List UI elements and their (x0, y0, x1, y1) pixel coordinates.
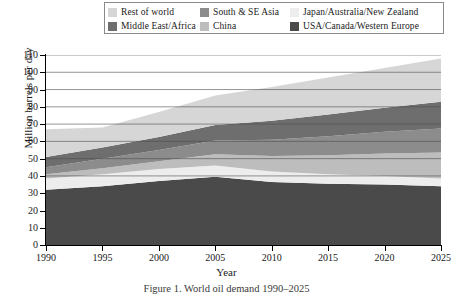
x-axis-line (45, 245, 442, 246)
x-tick-mark (385, 246, 386, 251)
legend-entry-middle-east-africa: Middle East/Africa (108, 20, 200, 33)
x-tick-label: 1990 (26, 252, 66, 263)
stacked-area-plot (46, 55, 441, 245)
legend-entry-japan-australia-nz: Japan/Australia/New Zealand (290, 6, 440, 19)
y-tick-mark (40, 141, 45, 142)
y-tick-mark (40, 124, 45, 125)
x-axis-title: Year (0, 266, 453, 278)
legend-label-middle-east-africa: Middle East/Africa (121, 21, 196, 32)
y-tick-mark (40, 176, 45, 177)
legend-entry-south-se-asia: South & SE Asia (200, 6, 290, 19)
legend-row: Middle East/Africa China USA/Canada/West… (108, 20, 440, 33)
y-tick-mark (40, 245, 45, 246)
legend-label-china: China (213, 21, 236, 32)
x-tick-label: 2020 (365, 252, 405, 263)
x-tick-label: 2025 (421, 252, 453, 263)
x-tick-label: 2015 (308, 252, 348, 263)
x-tick-mark (272, 246, 273, 251)
legend-swatch-japan-australia-nz (290, 8, 299, 17)
legend-row: Rest of world South & SE Asia Japan/Aust… (108, 6, 440, 19)
y-tick-label: 10 (12, 223, 38, 233)
chart-legend: Rest of world South & SE Asia Japan/Aust… (104, 2, 444, 34)
x-tick-label: 1995 (82, 252, 122, 263)
legend-swatch-south-se-asia (200, 8, 209, 17)
legend-entry-usa-canada-western-europe: USA/Canada/Western Europe (290, 20, 440, 33)
y-tick-mark (40, 55, 45, 56)
y-tick-mark (40, 159, 45, 160)
x-tick-mark (328, 246, 329, 251)
legend-label-usa-canada-western-europe: USA/Canada/Western Europe (303, 21, 419, 32)
plot-area (46, 55, 441, 245)
legend-entry-china: China (200, 20, 290, 33)
legend-label-rest-of-world: Rest of world (121, 7, 174, 18)
y-tick-label: 20 (12, 206, 38, 216)
y-tick-label: 0 (12, 240, 38, 250)
area-layers (46, 58, 441, 245)
y-axis-line (45, 54, 46, 246)
x-tick-mark (441, 246, 442, 251)
area-band (46, 177, 441, 245)
y-tick-mark (40, 107, 45, 108)
legend-swatch-middle-east-africa (108, 22, 117, 31)
y-tick-mark (40, 211, 45, 212)
x-tick-mark (46, 246, 47, 251)
y-tick-mark (40, 72, 45, 73)
y-tick-mark (40, 90, 45, 91)
x-tick-mark (215, 246, 216, 251)
x-tick-label: 2010 (252, 252, 292, 263)
y-tick-label: 30 (12, 188, 38, 198)
legend-label-south-se-asia: South & SE Asia (213, 7, 279, 18)
y-tick-mark (40, 228, 45, 229)
x-tick-mark (159, 246, 160, 251)
x-tick-mark (102, 246, 103, 251)
y-tick-mark (40, 193, 45, 194)
legend-swatch-china (200, 22, 209, 31)
legend-label-japan-australia-nz: Japan/Australia/New Zealand (303, 7, 418, 18)
legend-swatch-usa-canada-western-europe (290, 22, 299, 31)
y-axis-title: Million barrels per day (22, 18, 34, 178)
figure-caption: Figure 1. World oil demand 1990–2025 (0, 283, 453, 294)
legend-swatch-rest-of-world (108, 8, 117, 17)
x-tick-label: 2000 (139, 252, 179, 263)
x-tick-label: 2005 (195, 252, 235, 263)
legend-entry-rest-of-world: Rest of world (108, 6, 200, 19)
